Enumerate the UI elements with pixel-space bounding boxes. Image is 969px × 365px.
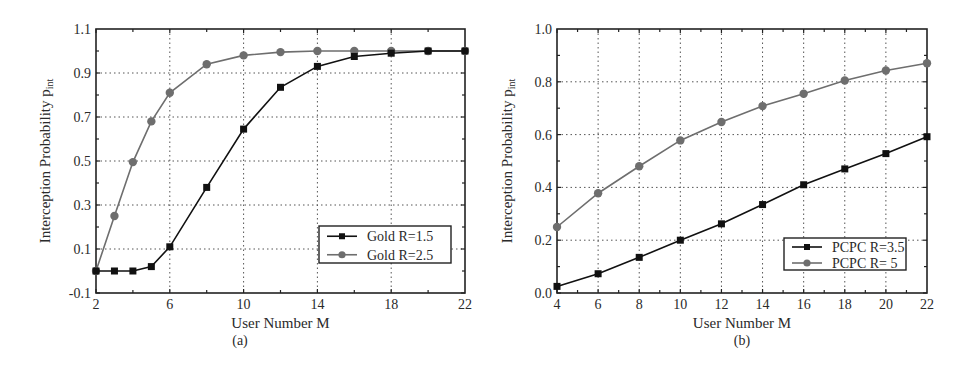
x-tick-label: 10 (673, 297, 687, 312)
circle-marker (882, 66, 890, 74)
x-axis-label: User Number M (693, 315, 791, 331)
legend-square-marker (804, 244, 810, 250)
circle-marker (676, 136, 684, 144)
legend-label: PCPC R= 5 (832, 256, 897, 271)
square-marker (554, 283, 561, 290)
series-line (557, 63, 927, 227)
x-tick-label: 16 (797, 297, 811, 312)
y-tick-label: 0.8 (535, 75, 553, 90)
series-circle (553, 59, 931, 231)
circle-marker (923, 59, 931, 67)
legend-circle-marker (803, 259, 810, 266)
circle-marker (553, 223, 561, 231)
y-tick-label: 1.0 (535, 22, 553, 37)
x-tick-label: 22 (920, 297, 934, 312)
square-marker (636, 254, 643, 261)
y-axis-label: Interception Probability pint (499, 78, 517, 243)
square-marker (841, 165, 848, 172)
x-tick-label: 14 (756, 297, 770, 312)
square-marker (759, 201, 766, 208)
square-marker (595, 270, 602, 277)
circle-marker (635, 162, 643, 170)
y-tick-label: 0.4 (535, 180, 553, 195)
x-tick-label: 4 (554, 297, 561, 312)
square-marker (718, 220, 725, 227)
y-tick-label: 0.6 (535, 128, 553, 143)
circle-marker (841, 76, 849, 84)
circle-marker (594, 189, 602, 197)
legend: PCPC R=3.5PCPC R= 5 (784, 238, 906, 271)
y-tick-label: 0.2 (535, 233, 553, 248)
x-tick-label: 6 (595, 297, 602, 312)
circle-marker (799, 89, 807, 97)
x-tick-label: 8 (636, 297, 643, 312)
square-marker (800, 181, 807, 188)
x-tick-label: 18 (838, 297, 852, 312)
circle-marker (758, 102, 766, 110)
legend-label: PCPC R=3.5 (832, 240, 904, 255)
square-marker (882, 150, 889, 157)
chart-b-plot: 468101214161820220.00.20.40.60.81.0User … (0, 0, 969, 365)
chart-b-caption: (b) (722, 333, 762, 349)
chart-b: 468101214161820220.00.20.40.60.81.0User … (0, 0, 969, 365)
square-marker (677, 237, 684, 244)
x-tick-label: 20 (879, 297, 893, 312)
x-tick-label: 12 (714, 297, 728, 312)
circle-marker (717, 118, 725, 126)
square-marker (924, 133, 931, 140)
y-tick-label: 0.0 (535, 286, 553, 301)
